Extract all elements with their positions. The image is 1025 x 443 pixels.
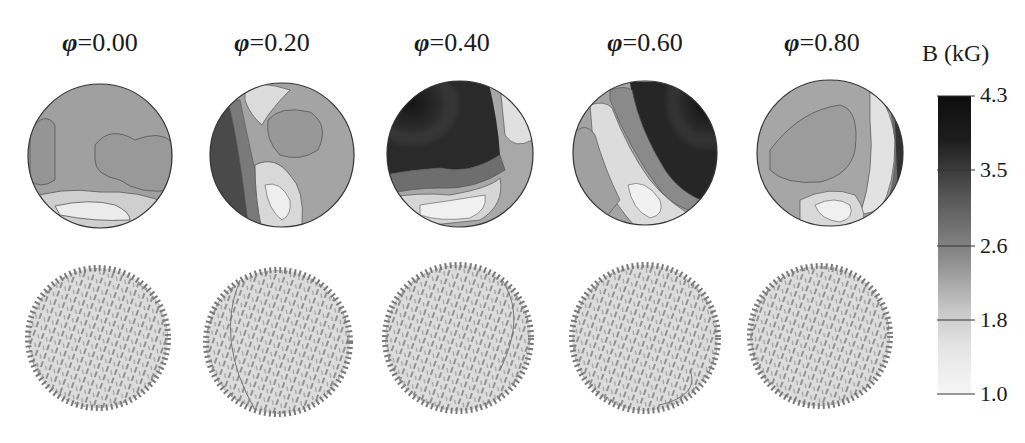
field-map-phase-2: [380, 78, 540, 238]
vector-map-phase-2: [385, 265, 531, 411]
colorbar-tick-3-5: 3.5: [980, 157, 1008, 183]
field-map-phase-3: [570, 75, 730, 238]
vector-map-phase-3: [572, 265, 718, 411]
figure-canvas: [0, 0, 1025, 443]
colorbar-title: B (kG): [922, 40, 989, 67]
field-map-phase-0: [20, 80, 180, 240]
colorbar-tick-4-3: 4.3: [980, 82, 1008, 108]
field-map-phase-4: [750, 78, 915, 238]
colorbar-tick-1-8: 1.8: [980, 307, 1008, 333]
colorbar-tick-1-0: 1.0: [980, 381, 1008, 407]
field-map-phase-1: [200, 80, 370, 240]
colorbar-tick-2-6: 2.6: [980, 233, 1008, 259]
colorbar: [937, 96, 975, 394]
vector-map-phase-1: [206, 270, 350, 414]
vector-map-phase-0: [28, 268, 168, 408]
vector-map-phase-4: [750, 266, 890, 406]
